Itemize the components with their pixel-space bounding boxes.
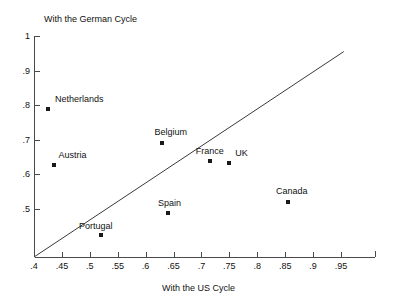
data-point-label: Austria	[59, 150, 87, 160]
y-tick-label: .6	[10, 169, 30, 179]
data-point-label: Canada	[276, 186, 308, 196]
x-axis-title: With the US Cycle	[0, 283, 397, 293]
x-tick-label: .65	[167, 261, 180, 271]
data-point-marker	[160, 141, 164, 145]
x-tick-label: .8	[254, 261, 262, 271]
data-point-label: Portugal	[79, 221, 113, 231]
data-point-marker	[208, 159, 212, 163]
data-point-marker	[227, 161, 231, 165]
data-point-label: Spain	[158, 198, 181, 208]
x-tick-label: .9	[309, 261, 317, 271]
data-point-marker	[286, 200, 290, 204]
data-point-marker	[46, 107, 50, 111]
y-tick-label: .8	[10, 100, 30, 110]
x-tick-label: .7	[198, 261, 206, 271]
data-point-label: Netherlands	[55, 94, 104, 104]
data-point-marker	[166, 211, 170, 215]
y-tick-label: 1	[10, 31, 30, 41]
x-tick-label: .55	[111, 261, 124, 271]
data-point-label: UK	[235, 148, 248, 158]
x-tick-label: .4	[30, 261, 38, 271]
x-tick-label: .45	[56, 261, 69, 271]
x-tick-label: .6	[142, 261, 150, 271]
x-tick-label: .85	[279, 261, 292, 271]
x-tick-label: .5	[86, 261, 94, 271]
x-tick-label: .95	[335, 261, 348, 271]
data-point-marker	[99, 233, 103, 237]
data-point-label: France	[196, 146, 224, 156]
x-tick-label: .75	[223, 261, 236, 271]
data-point-marker	[52, 163, 56, 167]
y-tick-label: .9	[10, 66, 30, 76]
y-tick-label: .7	[10, 135, 30, 145]
y-tick-label: .5	[10, 204, 30, 214]
data-point-label: Belgium	[154, 127, 187, 137]
scatter-chart: With the German Cycle .4.45.5.55.6.65.7.…	[0, 0, 397, 305]
